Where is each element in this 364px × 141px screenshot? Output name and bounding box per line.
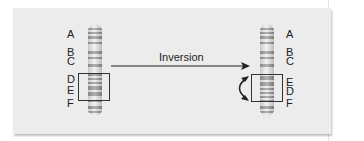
arrows-layer <box>0 0 364 141</box>
inversion-arrow-icon <box>111 62 250 70</box>
swap-curved-arrow-icon <box>240 76 250 101</box>
